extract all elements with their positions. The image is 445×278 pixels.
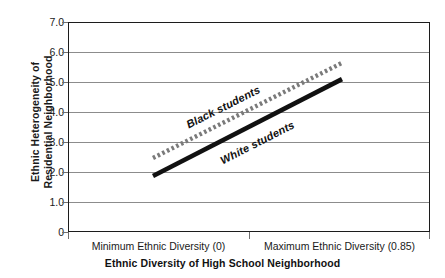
y-tick-label-1: 1.0 <box>36 197 64 208</box>
x-category-label-maximum: Maximum Ethnic Diversity (0.85) <box>249 240 430 252</box>
x-tick-mark-middle <box>249 232 250 239</box>
chart-figure: Ethnic Heterogeneity of Residential Neig… <box>0 0 445 278</box>
y-tick-label-4: 4.0 <box>36 107 64 118</box>
x-tick-mark-left <box>68 232 69 239</box>
y-tick-label-6: 6.0 <box>36 47 64 58</box>
plot-area: Black students White students <box>68 22 430 232</box>
y-tick-label-2: 2.0 <box>36 167 64 178</box>
x-tick-mark-right <box>429 232 430 239</box>
x-axis-category-labels: Minimum Ethnic Diversity (0) Maximum Eth… <box>68 240 430 256</box>
x-category-label-minimum: Minimum Ethnic Diversity (0) <box>68 240 249 252</box>
y-tick-label-0: 0 <box>36 227 64 238</box>
y-tick-label-7: 7.0 <box>36 17 64 28</box>
y-axis-tick-labels: 7.0 6.0 5.0 4.0 3.0 2.0 1.0 0 <box>36 0 64 278</box>
series-layer <box>69 23 431 233</box>
x-axis-title: Ethnic Diversity of High School Neighbor… <box>0 257 445 269</box>
y-tick-label-5: 5.0 <box>36 77 64 88</box>
y-tick-label-3: 3.0 <box>36 137 64 148</box>
